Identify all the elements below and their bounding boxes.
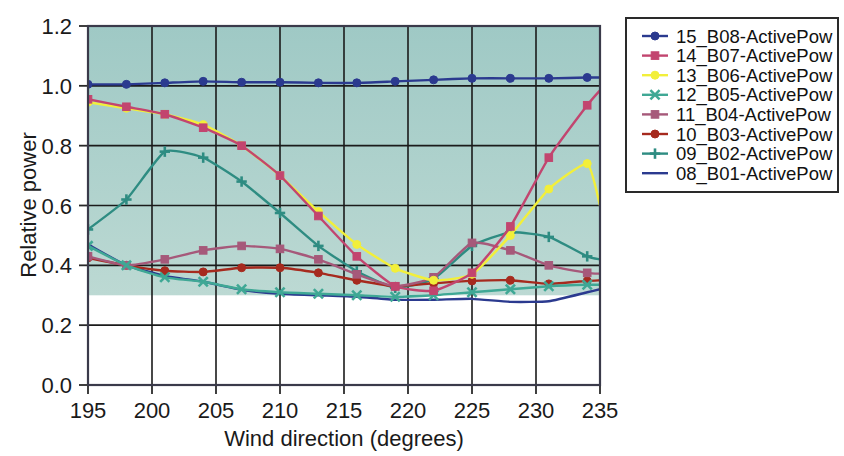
- x-tick-label: 200: [134, 398, 171, 423]
- data-point-marker: [238, 264, 246, 272]
- data-point-marker: [315, 256, 323, 264]
- data-point-marker: [583, 101, 591, 109]
- x-tick-label: 195: [70, 398, 107, 423]
- data-point-marker: [651, 32, 659, 40]
- data-point-marker: [199, 124, 207, 132]
- data-point-marker: [353, 253, 361, 261]
- y-axis-title: Relative power: [16, 132, 41, 278]
- data-point-marker: [583, 160, 591, 168]
- x-tick-label: 215: [326, 398, 363, 423]
- relative-power-vs-wind-direction-chart: 0.00.20.40.60.81.01.2 195200205210215220…: [0, 0, 844, 456]
- x-tick-label: 205: [198, 398, 235, 423]
- x-tick-label: 225: [454, 398, 491, 423]
- data-point-marker: [506, 74, 514, 82]
- data-point-marker: [506, 276, 514, 284]
- data-point-marker: [315, 212, 323, 220]
- data-point-marker: [199, 268, 207, 276]
- data-point-marker: [314, 79, 322, 87]
- data-point-marker: [276, 78, 284, 86]
- data-point-marker: [545, 74, 553, 82]
- data-point-marker: [545, 185, 553, 193]
- data-point-marker: [276, 264, 284, 272]
- data-point-marker: [276, 245, 284, 253]
- data-point-marker: [391, 264, 399, 272]
- y-tick-label: 0.2: [41, 313, 72, 338]
- data-point-marker: [353, 79, 361, 87]
- data-point-marker: [238, 78, 246, 86]
- x-axis-tick-labels: 195200205210215220225230235: [70, 398, 619, 423]
- data-point-marker: [651, 130, 659, 138]
- data-point-marker: [161, 110, 169, 118]
- data-point-marker: [583, 73, 591, 81]
- legend: 15_B08-ActivePow14_B07-ActivePow13_B06-A…: [626, 18, 838, 192]
- y-tick-label: 0.8: [41, 134, 72, 159]
- x-tick-label: 235: [582, 398, 619, 423]
- data-point-marker: [238, 242, 246, 250]
- data-point-marker: [391, 77, 399, 85]
- data-point-marker: [545, 262, 553, 270]
- data-point-marker: [507, 223, 515, 231]
- data-point-marker: [122, 80, 130, 88]
- data-point-marker: [468, 74, 476, 82]
- y-tick-label: 0.0: [41, 373, 72, 398]
- data-point-marker: [506, 231, 514, 239]
- data-point-marker: [651, 111, 659, 119]
- data-point-marker: [583, 269, 591, 277]
- data-point-marker: [238, 142, 246, 150]
- x-axis-title: Wind direction (degrees): [224, 426, 464, 451]
- data-point-marker: [161, 79, 169, 87]
- data-point-marker: [161, 256, 169, 264]
- data-point-marker: [353, 240, 361, 248]
- data-point-marker: [545, 154, 553, 162]
- data-point-marker: [353, 271, 361, 279]
- data-point-marker: [314, 269, 322, 277]
- data-point-marker: [199, 77, 207, 85]
- legend-item-label: 08_B01-ActivePow: [676, 163, 833, 185]
- y-tick-label: 1.2: [41, 14, 72, 39]
- data-point-marker: [468, 239, 476, 247]
- y-tick-label: 0.6: [41, 194, 72, 219]
- data-point-marker: [430, 276, 438, 284]
- data-point-marker: [430, 76, 438, 84]
- data-point-marker: [123, 103, 131, 111]
- y-tick-label: 1.0: [41, 74, 72, 99]
- data-point-marker: [199, 247, 207, 255]
- data-point-marker: [468, 269, 476, 277]
- x-tick-label: 220: [390, 398, 427, 423]
- data-point-marker: [651, 52, 659, 60]
- x-tick-label: 230: [518, 398, 555, 423]
- y-tick-label: 0.4: [41, 253, 72, 278]
- data-point-marker: [391, 282, 399, 290]
- data-point-marker: [507, 247, 515, 255]
- data-point-marker: [651, 71, 659, 79]
- data-point-marker: [430, 287, 438, 295]
- data-point-marker: [276, 172, 284, 180]
- x-tick-label: 210: [262, 398, 299, 423]
